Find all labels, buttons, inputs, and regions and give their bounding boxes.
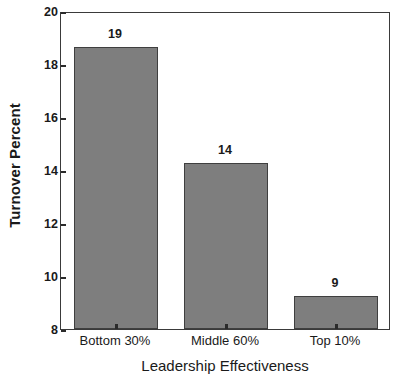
- bar-value-label: 14: [218, 144, 232, 157]
- x-axis-tick-label: Bottom 30%: [80, 334, 151, 348]
- y-axis-tick-mark: [61, 277, 66, 279]
- x-axis-title: Leadership Effectiveness: [60, 357, 390, 374]
- y-axis-tick-mark: [61, 330, 66, 332]
- bar-chart: Turnover Percent 8101214161820 Bottom 30…: [0, 0, 407, 387]
- y-axis-tick-label: 14: [32, 165, 58, 178]
- y-axis-tick-label: 18: [32, 59, 58, 72]
- bar-value-label: 9: [332, 277, 339, 290]
- y-axis-tick-mark: [61, 65, 66, 67]
- y-axis-tick-mark: [61, 171, 66, 173]
- y-axis-tick-label: 12: [32, 218, 58, 231]
- y-axis-tick-label: 10: [32, 271, 58, 284]
- bar: [74, 47, 158, 329]
- x-axis-tick-mark: [335, 324, 338, 329]
- y-axis-title: Turnover Percent: [0, 0, 28, 330]
- x-axis-tick-label: Middle 60%: [191, 334, 259, 348]
- y-axis-tick-label: 20: [32, 6, 58, 19]
- y-axis-tick-mark: [61, 224, 66, 226]
- y-axis-tick-label: 8: [32, 324, 58, 337]
- x-axis-tick-labels: Bottom 30%Middle 60%Top 10%: [60, 334, 390, 354]
- y-axis-tick-label: 16: [32, 112, 58, 125]
- plot-area: [60, 12, 390, 330]
- x-axis-tick-label: Top 10%: [310, 334, 361, 348]
- x-axis-tick-mark: [115, 324, 118, 329]
- y-axis-tick-mark: [61, 12, 66, 14]
- bar: [184, 163, 268, 329]
- y-axis-tick-mark: [61, 118, 66, 120]
- y-axis-tick-labels: 8101214161820: [28, 0, 58, 387]
- bar-value-label: 19: [108, 28, 122, 41]
- x-axis-tick-mark: [225, 324, 228, 329]
- y-axis-title-text: Turnover Percent: [6, 103, 23, 228]
